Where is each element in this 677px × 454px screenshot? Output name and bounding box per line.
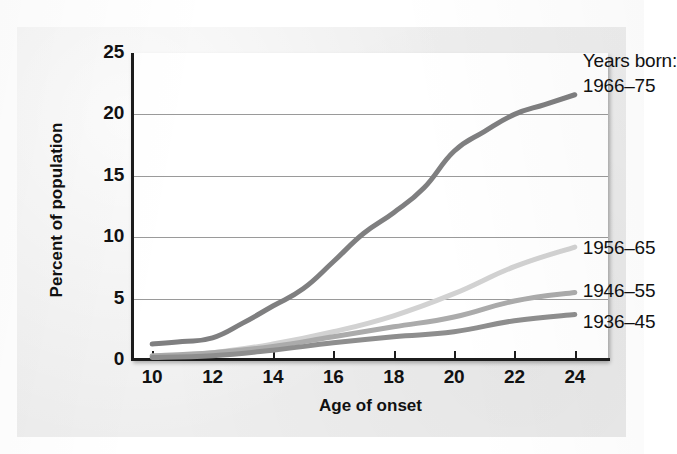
legend-title: Years born: (583, 50, 677, 72)
y-axis-title: Percent of population (47, 80, 67, 340)
y-axis-tick-labels: 0510152025 (72, 0, 124, 454)
series-lines (131, 53, 608, 360)
y-tick-label-25: 25 (72, 41, 124, 63)
y-tick-label-20: 20 (72, 102, 124, 124)
x-tick-label-18: 18 (383, 366, 404, 388)
x-tick-label-10: 10 (142, 366, 163, 388)
x-axis-title: Age of onset (131, 396, 610, 416)
x-tick-label-24: 24 (564, 366, 585, 388)
series-line-1966-75 (152, 95, 575, 344)
x-tick-label-22: 22 (504, 366, 525, 388)
series-label-1936-45: 1936–45 (583, 311, 656, 333)
series-label-1946-55: 1946–55 (583, 280, 656, 302)
y-tick-label-15: 15 (72, 164, 124, 186)
x-tick-label-16: 16 (323, 366, 344, 388)
series-label-1956-65: 1956–65 (583, 237, 656, 259)
x-tick-label-14: 14 (263, 366, 284, 388)
x-tick-label-12: 12 (202, 366, 223, 388)
y-tick-label-5: 5 (72, 287, 124, 309)
x-tick-label-20: 20 (444, 366, 465, 388)
y-tick-label-10: 10 (72, 225, 124, 247)
series-label-1966-75: 1966–75 (583, 75, 656, 97)
y-tick-label-0: 0 (72, 348, 124, 370)
